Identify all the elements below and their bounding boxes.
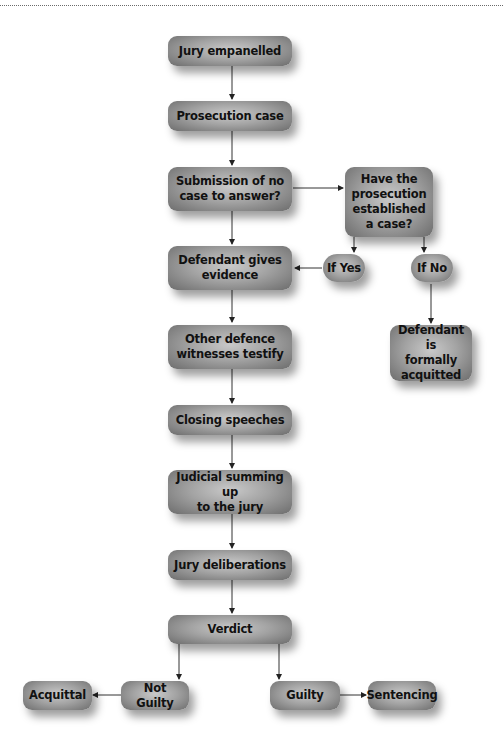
node-label: Jury deliberations <box>174 558 286 573</box>
node-label: Other defence witnesses testify <box>176 332 283 362</box>
node-judicial-summing-up: Judicial summing up to the jury <box>168 470 292 514</box>
node-guilty: Guilty <box>270 681 340 710</box>
node-label: If Yes <box>327 261 361 276</box>
node-label-line: Judicial summing up <box>176 470 283 499</box>
node-not-guilty: Not Guilty <box>121 681 189 710</box>
node-label-line: formally <box>405 353 457 367</box>
node-label-line: witnesses testify <box>176 347 283 361</box>
node-label: Sentencing <box>367 688 438 703</box>
node-label: Guilty <box>286 688 323 703</box>
node-label-line: evidence <box>202 268 258 282</box>
node-defendant-gives-evidence: Defendant gives evidence <box>168 246 292 290</box>
node-label: Not Guilty <box>125 681 185 711</box>
node-label-line: established <box>353 202 426 216</box>
node-label: Judicial summing up to the jury <box>172 470 288 515</box>
node-jury-deliberations: Jury deliberations <box>168 550 292 580</box>
node-label: Acquittal <box>29 688 86 703</box>
node-label: Verdict <box>208 622 253 637</box>
node-prosecution-case: Prosecution case <box>168 101 292 131</box>
node-prosecution-established-case: Have the prosecution established a case? <box>345 167 433 237</box>
node-label-line: acquitted <box>401 368 461 382</box>
node-jury-empanelled: Jury empanelled <box>168 36 292 66</box>
node-submission-no-case: Submission of no case to answer? <box>168 167 292 211</box>
node-label-line: a case? <box>366 217 412 231</box>
node-label: Submission of no case to answer? <box>176 174 284 204</box>
node-label-line: Have the <box>361 172 418 186</box>
node-label: Jury empanelled <box>179 44 281 59</box>
node-closing-speeches: Closing speeches <box>168 405 292 435</box>
node-label: Defendant gives evidence <box>178 253 281 283</box>
node-label-line: Defendant is <box>398 323 464 352</box>
node-label-line: Submission of no <box>176 174 284 188</box>
node-label-line: to the jury <box>197 500 263 514</box>
node-label-line: Other defence <box>185 332 275 346</box>
node-label: Defendant is formally acquitted <box>394 323 468 383</box>
node-other-defence-witnesses: Other defence witnesses testify <box>168 325 292 369</box>
node-if-yes: If Yes <box>323 254 365 282</box>
node-label-line: case to answer? <box>179 189 280 203</box>
node-label: Have the prosecution established a case? <box>352 172 427 232</box>
node-label: If No <box>417 261 447 276</box>
node-if-no: If No <box>411 254 453 282</box>
node-defendant-formally-acquitted: Defendant is formally acquitted <box>390 325 472 381</box>
node-label-line: prosecution <box>352 187 427 201</box>
node-label: Closing speeches <box>176 413 285 428</box>
node-label-line: Defendant gives <box>178 253 281 267</box>
node-acquittal: Acquittal <box>23 681 92 710</box>
node-sentencing: Sentencing <box>368 681 436 710</box>
node-verdict: Verdict <box>168 615 292 644</box>
node-label: Prosecution case <box>176 109 283 124</box>
